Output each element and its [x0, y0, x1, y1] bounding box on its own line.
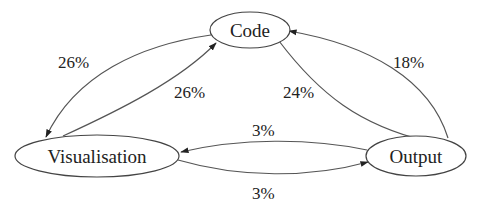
edge-label-code-to-output: 24%	[283, 83, 314, 102]
edge-label-output-to-code: 18%	[393, 53, 424, 72]
edge-label-visualisation-to-output: 3%	[252, 184, 275, 203]
node-label-output: Output	[390, 146, 444, 167]
transition-diagram: Code Visualisation Output 26% 26% 24% 18…	[0, 0, 484, 213]
edge-visualisation-to-output	[178, 160, 368, 174]
node-visualisation: Visualisation	[15, 135, 179, 177]
edge-label-output-to-visualisation: 3%	[252, 121, 275, 140]
edge-label-visualisation-to-code: 26%	[174, 83, 205, 102]
node-output: Output	[366, 136, 466, 176]
edge-output-to-visualisation	[181, 141, 367, 152]
node-label-visualisation: Visualisation	[47, 146, 147, 167]
node-label-code: Code	[230, 20, 270, 41]
node-code: Code	[210, 12, 290, 48]
edge-label-code-to-visualisation: 26%	[58, 53, 89, 72]
